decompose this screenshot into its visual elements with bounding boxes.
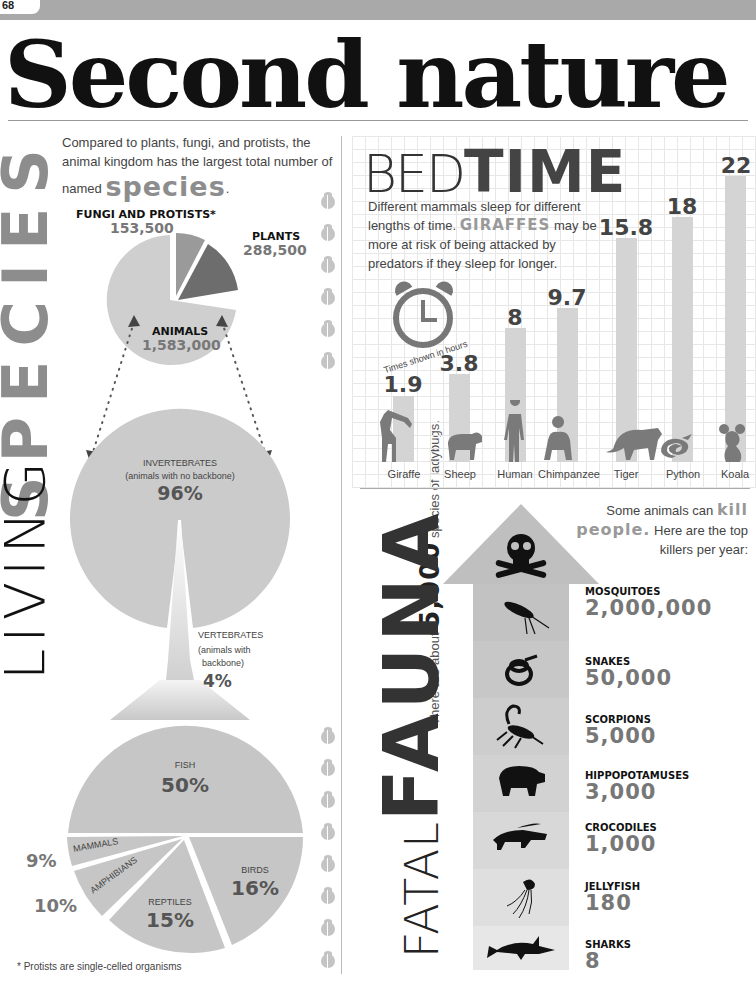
killer-value-sharks: 8 <box>585 949 601 973</box>
snake-icon <box>507 656 537 684</box>
fauna-title: FATALFAUNA <box>367 758 463 958</box>
ladybug-icon <box>321 826 335 840</box>
fauna-intro: Some animals can kill people. Here are t… <box>548 500 748 559</box>
birds-label: BIRDS <box>225 865 285 875</box>
killer-value-crocodiles: 1,000 <box>585 832 656 856</box>
alarm-clock-icon <box>393 288 453 348</box>
killer-value-scorpions: 5,000 <box>585 724 656 748</box>
vertebrates-note-2: backbone) <box>202 658 244 668</box>
bar-value-human: 8 <box>485 305 545 330</box>
invertebrates-value: 96% <box>150 482 210 504</box>
ladybug-icon <box>321 730 335 744</box>
kingdom-value-plants: 288,500 <box>243 242 307 258</box>
bar-value-tiger: 15.8 <box>593 215 659 240</box>
bedtime-baseline <box>360 488 750 489</box>
bar-value-sheep: 3.8 <box>429 351 489 376</box>
bar-value-chimpanzee: 9.7 <box>537 285 597 310</box>
column-divider <box>341 136 342 974</box>
killer-value-hippopotamuses: 3,000 <box>585 780 656 804</box>
ladybug-icon <box>321 922 335 936</box>
kingdom-value-fungi: 153,500 <box>110 220 174 236</box>
fish-value: 50% <box>150 773 220 797</box>
bedtime-title-bold: TIME <box>464 138 626 206</box>
invertebrates-note: (animals with no backbone) <box>105 471 255 481</box>
footnote: * Protists are single-celled organisms <box>17 961 182 972</box>
bar-value-python: 18 <box>652 194 712 219</box>
scorpion-icon <box>497 706 543 748</box>
fauna-intro-highlight-2: people. <box>576 520 650 539</box>
bar-value-giraffe: 1.9 <box>373 372 433 397</box>
bedtime-description: Different mammals sleep for different le… <box>368 197 598 273</box>
ladybug-icon <box>321 794 335 808</box>
ladybug-icon <box>321 762 335 776</box>
ladybug-icon <box>321 291 335 305</box>
vertebrates-note-1: (animals with <box>198 645 251 655</box>
bedtime-text-highlight: GIRAFFES <box>460 216 551 234</box>
hippopotamus-icon <box>499 766 545 796</box>
vertebrates-label: VERTEBRATES <box>198 630 263 640</box>
vertebrates-value: 4% <box>203 671 232 691</box>
fauna-title-thin: FATAL <box>395 821 449 958</box>
ladybug-icon <box>321 323 335 337</box>
human-icon <box>504 400 524 462</box>
killer-value-mosquitoes: 2,000,000 <box>585 596 712 620</box>
ladybug-icon <box>321 954 335 968</box>
tiger-icon <box>606 428 662 460</box>
fish-label: FISH <box>155 760 215 770</box>
ladybug-icon <box>321 259 335 273</box>
fauna-intro-highlight-1: kill <box>717 500 748 519</box>
bar-value-koala: 22 <box>712 153 756 178</box>
fauna-intro-2: Here are the top killers per year: <box>654 523 748 557</box>
killer-icons <box>473 510 569 970</box>
reptiles-label: REPTILES <box>140 897 200 907</box>
python-icon <box>661 434 692 458</box>
shark-icon <box>487 936 555 960</box>
mammals-value: 9% <box>26 850 57 871</box>
koala-icon <box>719 424 745 462</box>
kingdom-value-animals: 1,583,000 <box>142 337 221 353</box>
killer-value-jellyfish: 180 <box>585 891 632 915</box>
fauna-intro-1: Some animals can <box>606 503 713 518</box>
ladybug-icon <box>321 858 335 872</box>
birds-value: 16% <box>220 876 290 900</box>
invertebrates-label: INVERTEBRATES <box>120 458 240 468</box>
mosquito-icon <box>502 599 549 634</box>
crocodile-icon <box>493 824 547 851</box>
sheep-icon <box>448 432 482 460</box>
reptiles-value: 15% <box>137 908 203 932</box>
skull-crossbones-icon <box>495 534 547 579</box>
ladybug-icon <box>321 227 335 241</box>
bedtime-title-thin: BED <box>363 144 464 204</box>
ladybug-icon <box>321 195 335 209</box>
jellyfish-icon <box>507 879 535 918</box>
ladybug-icon <box>321 890 335 904</box>
ladybug-icon <box>321 355 335 369</box>
animal-silhouettes <box>352 400 756 466</box>
killer-value-snakes: 50,000 <box>585 666 672 690</box>
bar-label-koala: Koala <box>700 468 756 480</box>
amphibians-value: 10% <box>34 895 77 916</box>
chimpanzee-icon <box>544 416 572 460</box>
giraffe-icon <box>380 410 412 462</box>
